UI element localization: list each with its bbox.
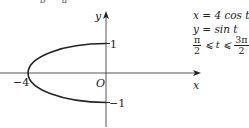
x-axis-label: x (193, 79, 200, 92)
equation-x: x = 4 cos t (193, 10, 249, 21)
origin-label: O (96, 77, 105, 90)
range-upper-den: 2 (234, 46, 248, 56)
y-tick-label-neg1: −1 (109, 97, 125, 110)
range-lower-fraction: π 2 (193, 35, 201, 56)
equation-x-text: x = 4 cos t (193, 9, 249, 21)
y-tick-label-1: 1 (110, 38, 117, 51)
parameter-range: π 2 ⩽ t ⩽ 3π 2 (193, 35, 249, 56)
range-upper-fraction: 3π 2 (234, 35, 248, 56)
y-axis-label: y (94, 10, 102, 23)
x-tick-label-neg4: −4 (13, 76, 29, 89)
range-lower-den: 2 (193, 46, 201, 56)
equation-y: y = sin t (193, 24, 237, 35)
range-relation: ⩽ t ⩽ (205, 39, 231, 50)
